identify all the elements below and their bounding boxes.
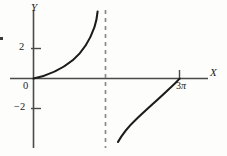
curve-branch-left — [34, 12, 98, 79]
y-tick-label-negative-2: −2 — [14, 101, 25, 112]
x-tick-label-3pi: 3π — [176, 80, 186, 91]
x-axis-label: X — [210, 66, 217, 78]
y-tick-label-2: 2 — [19, 41, 24, 52]
curve-branch-right — [118, 79, 180, 142]
plot-canvas — [0, 0, 227, 156]
pi-symbol: π — [181, 80, 186, 91]
graph-figure: Y X 2 −2 0 3π — [0, 0, 227, 156]
origin-label: 0 — [23, 80, 28, 91]
y-axis-label: Y — [31, 1, 37, 13]
scan-artifact-speck — [0, 37, 3, 40]
